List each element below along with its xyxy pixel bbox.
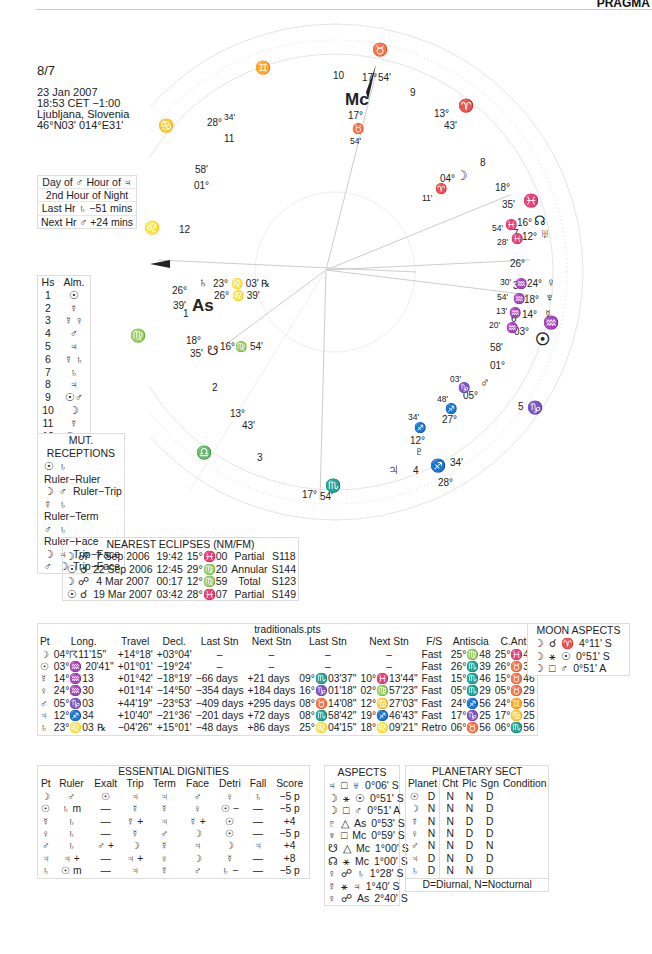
- chart-wheel: Mc 17° 54' 17° ♉ 54' ♉ ♊ ♋ ♌ ♍ ♎ ♏ ♐ ♑ ♒…: [150, 20, 652, 530]
- planet-icon: ♀: [406, 828, 424, 840]
- planet-icon: ♀: [328, 867, 336, 879]
- house-number-9: 9: [410, 87, 416, 98]
- planetary-hour-last: Last Hr ♄ −51 mins: [38, 202, 136, 215]
- mc-inner-sign: ♉: [352, 123, 364, 134]
- sect-cell: N: [424, 840, 440, 852]
- traditionals-cell: 03°♒ 20'41": [52, 661, 116, 673]
- traditionals-row: ♃12°♐34+10'40"−21°36'−201 days+72 days08…: [38, 710, 538, 722]
- planet-icon: ☿: [406, 816, 424, 828]
- sect-cell: [501, 840, 549, 852]
- aspect-icon: ⚹: [341, 880, 348, 892]
- sect-cell: N: [440, 828, 461, 840]
- traditionals-cell: ♀: [38, 685, 52, 697]
- traditionals-cell: 08°♏58'42": [297, 710, 358, 722]
- column-header: Decl.: [155, 636, 194, 648]
- jupiter-minute: 34': [408, 412, 419, 422]
- eclipse-date: 4 Mar 2007: [91, 575, 155, 587]
- dignity-cell: ☉: [89, 791, 122, 803]
- aspect-row: ♇△As0°53' S: [325, 817, 399, 830]
- almuten-ruler: ☿: [58, 417, 90, 430]
- traditionals-cell: 26°♏39: [449, 661, 493, 673]
- eclipse-time: 03:42: [154, 588, 184, 601]
- aspect-icon: ⚹: [343, 855, 350, 867]
- mc-minute: 54': [378, 72, 391, 83]
- traditionals-cell: 02°♍57'23": [358, 685, 419, 697]
- cusp-11-minute: 34': [224, 112, 235, 122]
- eclipse-time: 12:45: [154, 563, 184, 575]
- aspect-icon: △: [343, 842, 351, 854]
- dignity-cell: −5 p: [270, 865, 309, 878]
- sun-sign: ♒: [506, 322, 518, 333]
- dignity-cell: ☿: [148, 865, 181, 878]
- traditionals-cell: 17°♑25: [449, 710, 493, 722]
- almuten-row: 6☿ ♄: [38, 353, 90, 366]
- sect-cell: N: [479, 840, 501, 852]
- mercury-icon: ☿: [543, 307, 553, 322]
- eclipse-date: 7 Sep 2006: [91, 550, 155, 562]
- planet-icon: ♄: [59, 498, 73, 511]
- dignity-cell: ☿ +: [181, 816, 214, 828]
- traditionals-cell: +01°01': [116, 661, 155, 673]
- sect-cell: N: [440, 853, 461, 865]
- sect-title-row: PLANETARY SECT: [406, 766, 549, 779]
- dignity-cell: ♃ +: [122, 853, 148, 865]
- dignity-cell: ♄: [54, 840, 89, 852]
- cancer-icon: ♋: [158, 118, 174, 133]
- reception-row: ☽♂Ruler−Trip: [38, 485, 124, 498]
- aspect-row: ♆□Mc0°59' S: [325, 829, 399, 842]
- house-number: 3: [38, 314, 58, 327]
- house-number: 4: [38, 327, 58, 340]
- dignity-cell: ☿: [148, 803, 181, 815]
- planet-icon: ♄: [59, 523, 73, 536]
- traditionals-cell: ♃: [38, 710, 52, 722]
- traditionals-cell: −18°19': [155, 673, 194, 685]
- column-header: Score: [270, 778, 309, 790]
- eclipses-table: NEAREST ECLIPSES (NM/FM)☽ ☍7 Sep 200619:…: [62, 537, 299, 601]
- traditionals-cell: +86 days: [246, 722, 298, 735]
- column-header: Last Stn: [297, 636, 358, 648]
- traditionals-cell: 06°♏56: [493, 722, 538, 735]
- column-header: Exalt: [89, 778, 122, 790]
- traditionals-cell: 12°♋27'03": [358, 698, 419, 710]
- traditionals-cell: −04'26": [116, 722, 155, 735]
- sect-cell: D: [479, 828, 501, 840]
- planet-icon: ☿: [328, 880, 336, 892]
- aspect-icon: □: [549, 662, 555, 674]
- dignity-cell: ☽: [122, 840, 148, 852]
- mars-icon: ♂: [480, 375, 490, 390]
- eclipses-title-row: NEAREST ECLIPSES (NM/FM): [63, 538, 299, 551]
- sect-cell: N: [460, 803, 478, 815]
- mc-label: Mc: [345, 90, 369, 110]
- dignity-cell: ♂: [181, 865, 214, 878]
- mercury-sign: ♒: [509, 307, 521, 318]
- house-number: 1: [38, 289, 58, 302]
- sect-cell: [501, 791, 549, 803]
- orb: 0°51' S: [576, 650, 610, 662]
- planet-icon: ☽: [44, 548, 59, 561]
- column-header: Sgn: [479, 778, 501, 790]
- saturn-icon: ♄: [198, 275, 208, 290]
- dignity-cell: ☿: [214, 853, 246, 865]
- sect-title: PLANETARY SECT: [406, 766, 549, 779]
- house-number: 7: [38, 366, 58, 379]
- eclipse-row: ☉ ☌22 Sep 200612:4529°♍20AnnularS144: [63, 563, 299, 575]
- orb: 0°51' A: [573, 662, 606, 674]
- eclipse-type-icon: ☉ ☌: [63, 563, 91, 575]
- traditionals-cell: –: [297, 649, 358, 661]
- aspect-icon: □: [341, 829, 347, 841]
- sect-cell: [501, 803, 549, 815]
- almuten-row: 11☿: [38, 417, 90, 430]
- orb: 1°28' S: [370, 867, 404, 879]
- pisces-icon: ♓: [523, 193, 539, 208]
- chart-name: 8/7: [37, 63, 55, 78]
- orb: 0°51' A: [367, 804, 400, 816]
- sect-cell: N: [460, 791, 478, 803]
- dignity-cell: ♄ −: [214, 865, 246, 878]
- eclipse-kind: Partial: [229, 550, 269, 562]
- cusp-6-minute: 58': [490, 342, 503, 353]
- aspect-icon: △: [341, 817, 349, 829]
- almuten-row: 2☿: [38, 302, 90, 315]
- planet-icon: ☽: [328, 792, 338, 804]
- jupiter-degree: 12°: [410, 435, 425, 446]
- dignity-cell: −5 p: [270, 803, 309, 815]
